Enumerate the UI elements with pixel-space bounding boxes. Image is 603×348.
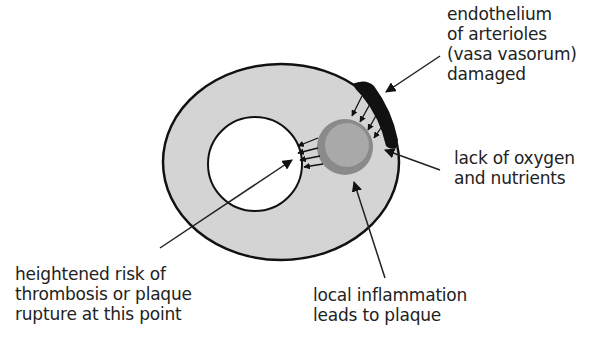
label-thrombosis: heightened risk of thrombosis or plaque … (15, 264, 192, 324)
artery-lumen (208, 117, 302, 211)
label-oxygen: lack of oxygen and nutrients (454, 148, 575, 188)
arrow-endothelium (386, 56, 440, 92)
label-endothelium: endothelium of arterioles (vasa vasorum)… (447, 4, 577, 84)
plaque-core (325, 123, 369, 167)
label-inflammation: local inflammation leads to plaque (313, 285, 467, 325)
